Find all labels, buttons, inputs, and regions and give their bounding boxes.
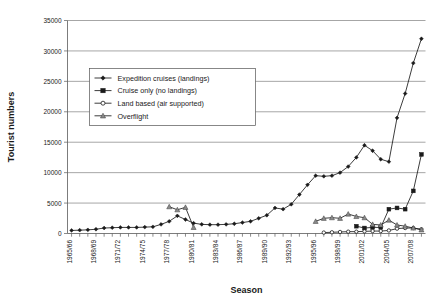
y-axis-title: Tourist numbers bbox=[6, 92, 16, 162]
data-point bbox=[127, 226, 131, 230]
data-point bbox=[347, 230, 350, 233]
data-point bbox=[322, 174, 326, 178]
data-point bbox=[143, 225, 147, 229]
x-tick-label: 1974/75 bbox=[139, 240, 146, 264]
x-tick-label: 1998/99 bbox=[334, 240, 341, 264]
x-tick-label: 1977/78 bbox=[163, 240, 170, 264]
data-point bbox=[86, 228, 90, 232]
data-point bbox=[94, 227, 98, 231]
legend: Expedition cruises (landings)Cruise only… bbox=[90, 69, 256, 126]
data-point bbox=[371, 229, 374, 232]
x-tick-label: 1986/87 bbox=[236, 240, 243, 264]
data-point bbox=[387, 160, 391, 164]
x-tick-label: 2001/02 bbox=[358, 240, 365, 264]
y-tick-label: 15000 bbox=[43, 139, 61, 146]
x-tick-label: 1968/69 bbox=[90, 240, 97, 264]
x-tick-label: 1992/93 bbox=[285, 240, 292, 264]
legend-marker bbox=[101, 101, 105, 105]
data-point bbox=[330, 174, 334, 178]
legend-label: Land based (air supported) bbox=[118, 99, 204, 108]
data-point bbox=[386, 218, 391, 223]
legend-marker bbox=[101, 88, 105, 92]
data-point bbox=[224, 222, 228, 226]
data-point bbox=[249, 219, 253, 223]
data-point bbox=[241, 221, 245, 225]
y-tick-label: 0 bbox=[58, 230, 62, 237]
data-point bbox=[322, 231, 325, 234]
data-point bbox=[387, 229, 390, 232]
x-tick-label: 1989/90 bbox=[261, 240, 268, 264]
x-tick-label: 1983/84 bbox=[212, 240, 219, 264]
data-point bbox=[167, 204, 172, 209]
data-point bbox=[395, 222, 400, 227]
x-axis-title: Season bbox=[230, 285, 262, 295]
data-point bbox=[330, 231, 333, 234]
series-group bbox=[70, 37, 424, 234]
data-point bbox=[200, 222, 204, 226]
data-point bbox=[355, 230, 358, 233]
data-point bbox=[70, 229, 74, 233]
legend-label: Expedition cruises (landings) bbox=[118, 74, 210, 83]
data-point bbox=[403, 207, 407, 211]
y-tick-label: 35000 bbox=[43, 17, 61, 24]
y-tick-label: 25000 bbox=[43, 78, 61, 85]
data-point bbox=[191, 225, 196, 230]
series-line bbox=[169, 207, 193, 228]
data-point bbox=[379, 229, 382, 232]
data-point bbox=[354, 224, 358, 228]
data-point bbox=[151, 225, 155, 229]
x-tick-label: 1995/96 bbox=[310, 240, 317, 264]
y-tick-label: 5000 bbox=[47, 200, 62, 207]
data-point bbox=[346, 212, 351, 217]
data-point bbox=[110, 226, 114, 230]
data-point bbox=[118, 226, 122, 230]
data-point bbox=[159, 222, 163, 226]
axes-group bbox=[68, 21, 426, 234]
y-tick-label: 10000 bbox=[43, 169, 61, 176]
data-point bbox=[78, 228, 82, 232]
data-point bbox=[420, 37, 424, 41]
data-point bbox=[363, 230, 366, 233]
data-point bbox=[184, 218, 188, 222]
x-ticks-group: 1965/661968/691971/721974/751977/781980/… bbox=[66, 234, 422, 264]
data-point bbox=[208, 223, 212, 227]
data-point bbox=[420, 152, 424, 156]
x-tick-label: 1971/72 bbox=[114, 240, 121, 264]
data-point bbox=[183, 205, 188, 210]
x-tick-label: 1965/66 bbox=[66, 240, 73, 264]
legend-label: Overflight bbox=[118, 112, 149, 121]
chart-canvas: 050001000015000200002500030000350001965/… bbox=[0, 0, 438, 300]
data-point bbox=[135, 226, 139, 230]
data-point bbox=[257, 216, 261, 220]
data-point bbox=[395, 206, 399, 210]
tourist-numbers-line-chart: 050001000015000200002500030000350001965/… bbox=[0, 0, 438, 300]
data-point bbox=[395, 227, 398, 230]
gridlines-group: 05000100001500020000250003000035000 bbox=[43, 17, 425, 237]
series-line bbox=[72, 39, 422, 231]
data-point bbox=[232, 222, 236, 226]
data-point bbox=[102, 226, 106, 230]
x-tick-label: 2007/08 bbox=[407, 240, 414, 264]
data-point bbox=[395, 116, 399, 120]
x-tick-label: 2004/05 bbox=[383, 240, 390, 264]
data-point bbox=[411, 61, 415, 65]
legend-label: Cruise only (no landings) bbox=[118, 86, 198, 95]
data-point bbox=[338, 230, 341, 233]
data-point bbox=[281, 207, 285, 211]
y-tick-label: 20000 bbox=[43, 108, 61, 115]
y-tick-label: 30000 bbox=[43, 48, 61, 55]
data-point bbox=[387, 207, 391, 211]
data-point bbox=[403, 92, 407, 96]
data-point bbox=[411, 189, 415, 193]
data-point bbox=[216, 223, 220, 227]
x-tick-label: 1980/81 bbox=[188, 240, 195, 264]
